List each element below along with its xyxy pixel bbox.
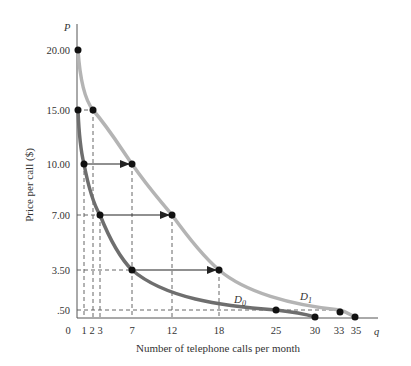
x-axis-title: Number of telephone calls per month (136, 342, 301, 354)
svg-text:0: 0 (65, 325, 70, 336)
y-axis-title: Price per call ($) (23, 148, 36, 222)
svg-text:20.00: 20.00 (46, 45, 70, 56)
svg-text:1: 1 (81, 325, 86, 336)
d1-curve (78, 50, 355, 317)
svg-text:3.50: 3.50 (52, 265, 70, 276)
svg-text:15.00: 15.00 (46, 105, 70, 116)
svg-text:18: 18 (214, 325, 225, 336)
d0-curve (78, 110, 315, 317)
svg-text:7: 7 (129, 325, 134, 336)
svg-text:25: 25 (271, 325, 282, 336)
svg-text:33: 33 (334, 325, 345, 336)
x-tick-labels: 0 1 2 3 7 12 18 25 30 33 35 (65, 325, 361, 336)
y-tick-labels: 20.00 15.00 10.00 7.00 3.50 .50 (46, 45, 70, 316)
data-points (75, 47, 359, 321)
demand-curve-chart: P 20.00 15.00 10.00 7.00 3.50 .50 0 1 2 … (0, 0, 411, 366)
shift-arrows (84, 164, 216, 270)
svg-text:12: 12 (167, 325, 178, 336)
y-axis-symbol: P (63, 22, 71, 33)
svg-text:35: 35 (351, 325, 362, 336)
svg-text:2: 2 (89, 325, 94, 336)
svg-text:.50: .50 (57, 305, 70, 316)
svg-text:30: 30 (310, 325, 321, 336)
svg-text:7.00: 7.00 (52, 210, 70, 221)
svg-text:10.00: 10.00 (46, 159, 70, 170)
x-axis-symbol: q (374, 326, 379, 337)
axes (77, 24, 378, 318)
svg-text:3: 3 (97, 325, 102, 336)
